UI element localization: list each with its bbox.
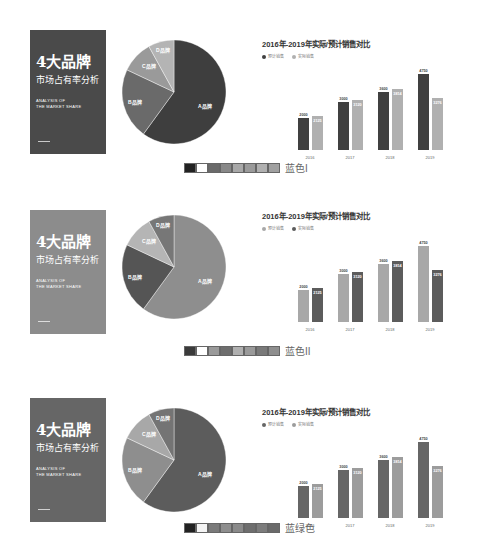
pie-label-c: C品牌 [142,430,156,437]
palette-swatch-row: 蓝绿色 [184,520,315,535]
pie-label-d: D品牌 [156,414,170,421]
bar-2018-actual [392,457,403,518]
bar-value-label: 3814 [389,92,407,96]
legend-item-expected: 预计销售 [262,421,284,427]
bar-value-label: 2000 [295,285,313,289]
sales-bar-chart: 2016年-2019年实际/预计销售对比预计销售实际销售200021252016… [262,38,472,173]
bar-2016-expected [298,486,309,518]
color-swatch [232,346,244,356]
cover-card: 4大品牌市场占有率分析ANALYSIS OFTHE MARKET SHARE [30,210,106,334]
cover-card: 4大品牌市场占有率分析ANALYSIS OFTHE MARKET SHARE [30,398,106,522]
color-swatch [244,346,256,356]
cover-english-line2: THE MARKET SHARE [36,104,100,110]
plot-area: 2000212520163000312020173600381420184750… [262,232,472,332]
cover-title: 4大品牌 [36,230,100,251]
color-swatch [208,523,220,533]
color-swatch [184,163,196,173]
cover-title: 4大品牌 [36,50,100,71]
legend-label: 实际销售 [298,54,314,59]
bar-2017-actual [352,468,363,518]
x-tick-label: 2019 [420,523,440,528]
color-swatch [256,523,268,533]
plot-area: 2000212520163000312020173600381420184750… [262,60,472,160]
bar-value-label: 2125 [309,291,327,295]
bar-2016-expected [298,118,309,150]
bar-value-label: 4750 [415,437,433,441]
color-swatch [232,523,244,533]
color-swatch [208,346,220,356]
cover-english-line2: THE MARKET SHARE [36,284,100,290]
bar-2018-expected [378,460,389,518]
bar-value-label: 2000 [295,481,313,485]
bar-value-label: 3600 [375,259,393,263]
pie-label-b: B品牌 [128,466,142,473]
cover-card: 4大品牌市场占有率分析ANALYSIS OFTHE MARKET SHARE [30,30,106,154]
legend-item-actual: 实际销售 [292,421,314,427]
cover-english: ANALYSIS OFTHE MARKET SHARE [36,98,100,110]
market-share-pie: A品牌B品牌C品牌D品牌 [122,408,226,512]
bar-value-label: 3120 [349,275,367,279]
legend-item-actual: 实际销售 [292,225,314,231]
bar-value-label: 3000 [335,465,353,469]
pie-label-a: A品牌 [198,102,212,109]
legend-dot-icon [292,227,296,231]
color-swatch [196,523,208,533]
legend-dot-icon [262,423,266,427]
x-tick-label: 2016 [300,327,320,332]
bar-2019-expected [418,246,429,322]
cover-title: 4大品牌 [36,418,100,439]
palette-name: 蓝绿色 [285,520,315,535]
bar-value-label: 3276 [429,469,447,473]
bar-2019-actual [432,270,443,322]
cover-subtitle: 市场占有率分析 [36,441,100,454]
chart-title: 2016年-2019年实际/预计销售对比 [262,210,472,221]
chart-legend: 预计销售实际销售 [262,225,472,231]
x-tick-label: 2018 [380,523,400,528]
cover-english: ANALYSIS OFTHE MARKET SHARE [36,278,100,290]
legend-label: 预计销售 [268,422,284,427]
bar-value-label: 3120 [349,103,367,107]
x-tick-label: 2018 [380,327,400,332]
color-swatch [196,346,208,356]
pie-label-d: D品牌 [156,221,170,228]
legend-item-expected: 预计销售 [262,225,284,231]
bar-2016-expected [298,290,309,322]
legend-label: 预计销售 [268,54,284,59]
legend-label: 实际销售 [298,422,314,427]
bar-value-label: 4750 [415,241,433,245]
chart-legend: 预计销售实际销售 [262,421,472,427]
color-swatch [244,163,256,173]
bar-2019-actual [432,98,443,150]
legend-item-actual: 实际销售 [292,53,314,59]
legend-dot-icon [262,227,266,231]
bar-2017-expected [338,470,349,518]
pie-label-a: A品牌 [198,470,212,477]
color-swatch [256,346,268,356]
chart-title: 2016年-2019年实际/预计销售对比 [262,38,472,49]
color-swatch [196,163,208,173]
color-swatch [268,163,280,173]
color-swatch [220,523,232,533]
bar-value-label: 4750 [415,69,433,73]
palette-swatch-row: 蓝色I [184,160,308,175]
color-swatch [244,523,256,533]
cover-english: ANALYSIS OFTHE MARKET SHARE [36,466,100,478]
bar-2019-expected [418,74,429,150]
legend-dot-icon [262,55,266,59]
bar-2018-actual [392,261,403,322]
bar-2017-actual [352,100,363,150]
pie-label-b: B品牌 [128,98,142,105]
bar-value-label: 3276 [429,273,447,277]
legend-label: 预计销售 [268,226,284,231]
pie-label-c: C品牌 [142,62,156,69]
legend-label: 实际销售 [298,226,314,231]
pie-label-a: A品牌 [198,277,212,284]
color-swatch [220,163,232,173]
cover-english-line2: THE MARKET SHARE [36,472,100,478]
color-swatch [208,163,220,173]
market-share-pie: A品牌B品牌C品牌D品牌 [122,215,226,319]
x-tick-label: 2019 [420,327,440,332]
legend-item-expected: 预计销售 [262,53,284,59]
x-tick-label: 2019 [420,155,440,160]
palette-swatch-row: 蓝色II [184,343,311,358]
